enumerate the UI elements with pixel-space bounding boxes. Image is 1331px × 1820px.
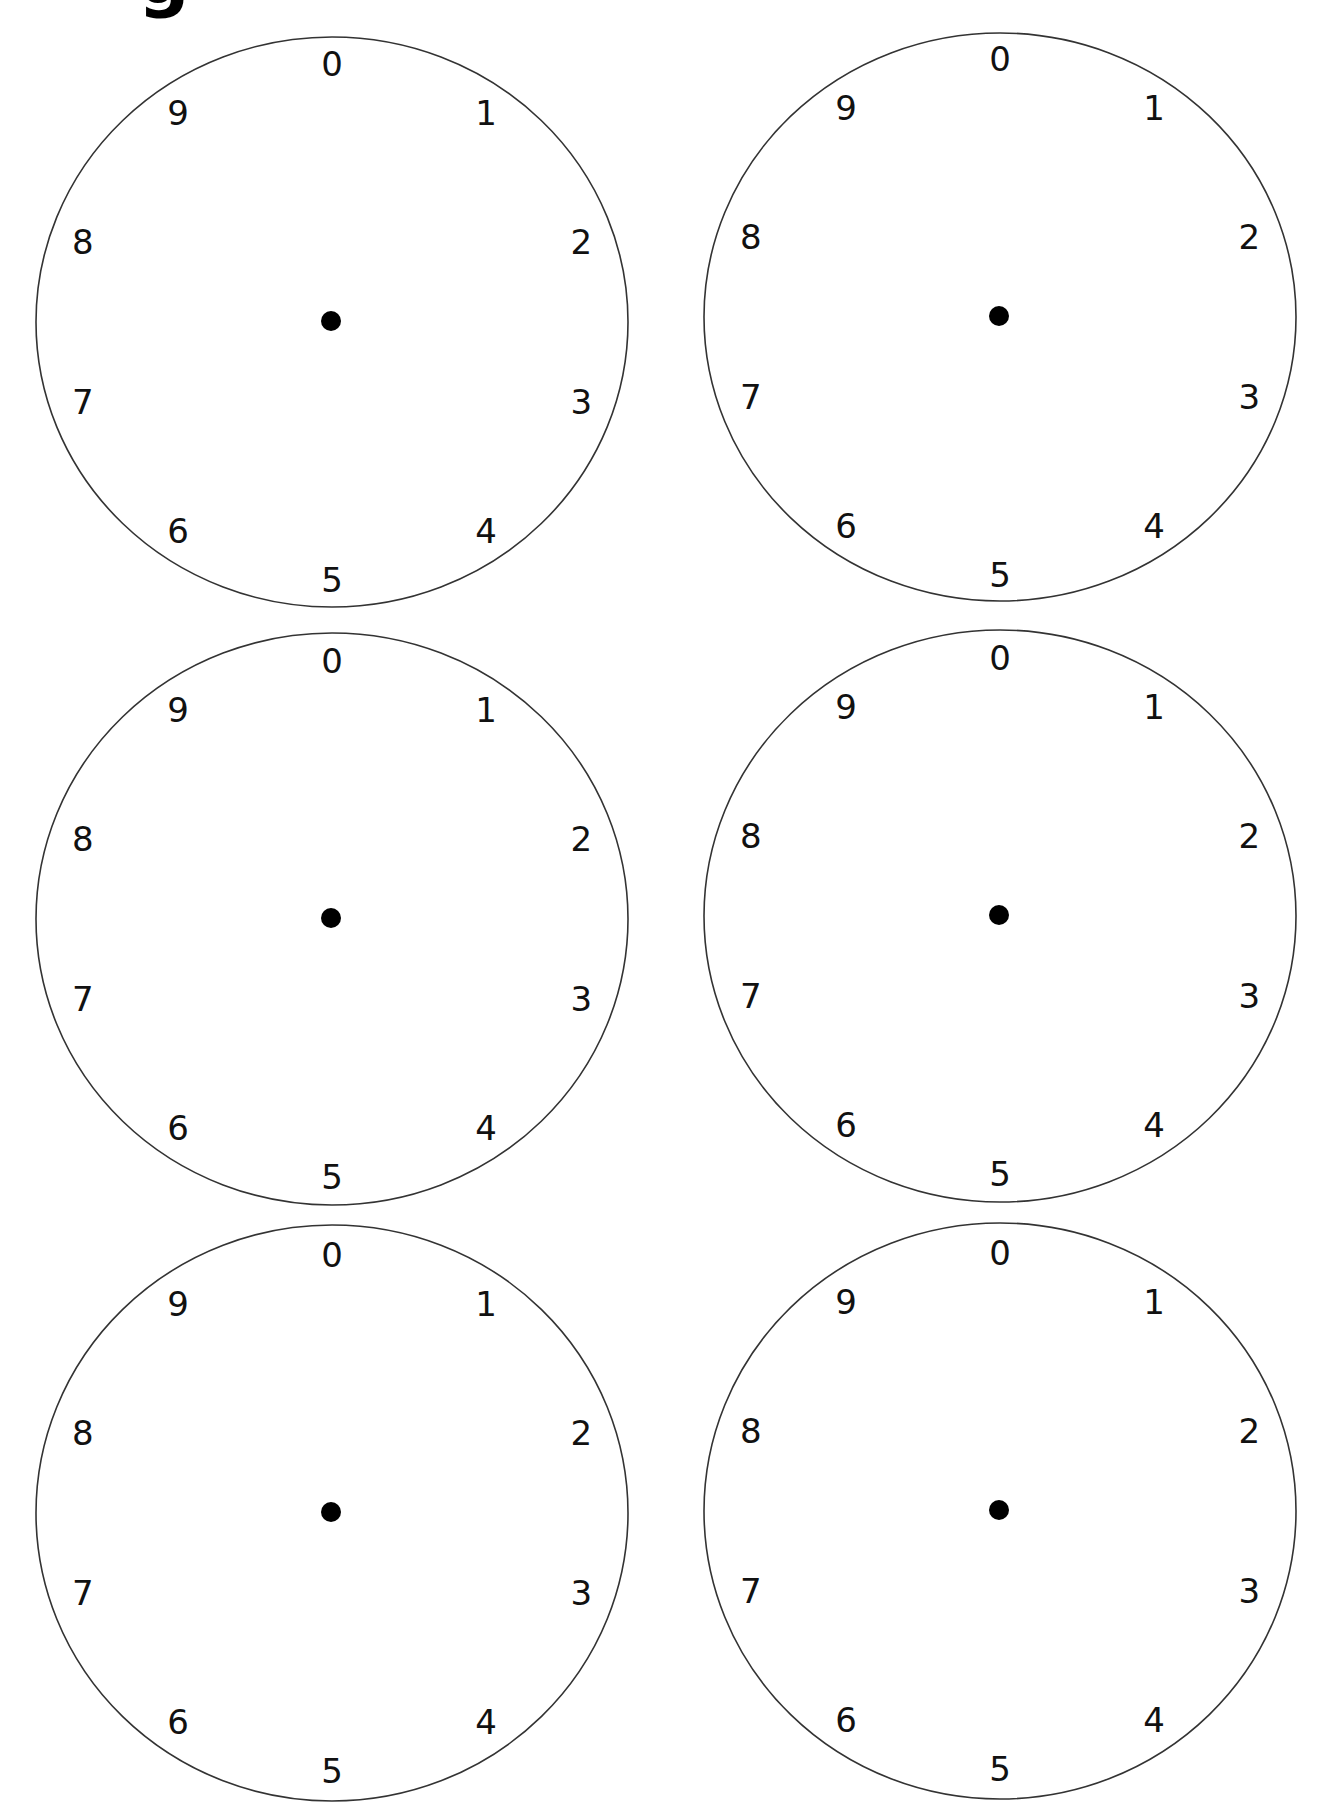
center-dot-icon — [989, 306, 1009, 326]
dial-digit-0: 0 — [321, 1235, 343, 1275]
dial-digit-5: 5 — [989, 555, 1011, 595]
dial-digit-8: 8 — [740, 816, 762, 856]
dial-digit-7: 7 — [72, 1573, 94, 1613]
center-dot-icon — [989, 905, 1009, 925]
dial-digit-5: 5 — [989, 1749, 1011, 1789]
dial-digit-2: 2 — [1238, 1411, 1260, 1451]
dial-digit-3: 3 — [1238, 377, 1260, 417]
dial-digit-3: 3 — [1238, 1571, 1260, 1611]
dial-digit-0: 0 — [989, 39, 1011, 79]
dial-digit-6: 6 — [167, 1108, 189, 1148]
dial-digit-1: 1 — [475, 690, 497, 730]
dial-digit-3: 3 — [1238, 976, 1260, 1016]
dial-digit-8: 8 — [72, 222, 94, 262]
dial-digit-3: 3 — [570, 1573, 592, 1613]
dial-digit-2: 2 — [570, 819, 592, 859]
dial-digit-1: 1 — [475, 93, 497, 133]
dial-digit-0: 0 — [989, 1233, 1011, 1273]
center-dot-icon — [989, 1500, 1009, 1520]
dial-digit-8: 8 — [72, 819, 94, 859]
dial-digit-1: 1 — [1143, 88, 1165, 128]
dial-digit-2: 2 — [570, 222, 592, 262]
dial-digit-4: 4 — [1143, 1105, 1165, 1145]
dial-digit-9: 9 — [835, 1282, 857, 1322]
dial-digit-0: 0 — [321, 44, 343, 84]
center-dot-icon — [321, 1502, 341, 1522]
dial-digit-1: 1 — [475, 1284, 497, 1324]
dial-digit-9: 9 — [167, 93, 189, 133]
dial-digit-7: 7 — [740, 1571, 762, 1611]
dial-digit-9: 9 — [835, 88, 857, 128]
dial-digit-6: 6 — [835, 1700, 857, 1740]
dial-digit-6: 6 — [167, 1702, 189, 1742]
dial-digit-7: 7 — [740, 976, 762, 1016]
dial-row3-left: 0123456789 — [36, 1225, 628, 1801]
dial-row1-right: 0123456789 — [704, 33, 1296, 601]
center-dot-icon — [321, 908, 341, 928]
center-dot-icon — [321, 311, 341, 331]
dial-digit-3: 3 — [570, 382, 592, 422]
dial-row2-left: 0123456789 — [36, 633, 628, 1205]
dial-digit-1: 1 — [1143, 1282, 1165, 1322]
dial-row2-right: 0123456789 — [704, 630, 1296, 1202]
dial-digit-7: 7 — [740, 377, 762, 417]
dial-digit-2: 2 — [570, 1413, 592, 1453]
dial-digit-4: 4 — [475, 511, 497, 551]
dial-digit-7: 7 — [72, 382, 94, 422]
dial-digit-6: 6 — [835, 506, 857, 546]
dial-sheet: 0123456789012345678901234567890123456789… — [0, 0, 1331, 1820]
dial-digit-4: 4 — [1143, 1700, 1165, 1740]
dial-digit-9: 9 — [835, 687, 857, 727]
dial-digit-5: 5 — [321, 1751, 343, 1791]
dial-digit-4: 4 — [475, 1702, 497, 1742]
dial-digit-5: 5 — [321, 1157, 343, 1197]
dial-digit-4: 4 — [1143, 506, 1165, 546]
dial-digit-8: 8 — [740, 1411, 762, 1451]
dial-digit-6: 6 — [167, 511, 189, 551]
dial-digit-2: 2 — [1238, 217, 1260, 257]
dial-digit-9: 9 — [167, 1284, 189, 1324]
dial-digit-0: 0 — [321, 641, 343, 681]
dial-digit-8: 8 — [740, 217, 762, 257]
dial-digit-0: 0 — [989, 638, 1011, 678]
dial-digit-4: 4 — [475, 1108, 497, 1148]
dial-digit-5: 5 — [989, 1154, 1011, 1194]
dial-digit-5: 5 — [321, 560, 343, 600]
dial-digit-9: 9 — [167, 690, 189, 730]
dial-digit-1: 1 — [1143, 687, 1165, 727]
dial-digit-2: 2 — [1238, 816, 1260, 856]
dial-row3-right: 0123456789 — [704, 1223, 1296, 1799]
dial-digit-8: 8 — [72, 1413, 94, 1453]
dial-digit-3: 3 — [570, 979, 592, 1019]
dial-digit-7: 7 — [72, 979, 94, 1019]
dial-digit-6: 6 — [835, 1105, 857, 1145]
dial-row1-left: 0123456789 — [36, 37, 628, 607]
